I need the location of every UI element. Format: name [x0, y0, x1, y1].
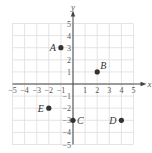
x-tick-label: 3 [107, 86, 111, 95]
point-label: D [108, 115, 117, 126]
y-axis-label: y [70, 2, 75, 12]
x-axis-arrow-icon [141, 82, 147, 86]
y-tick-label: 2 [67, 56, 71, 65]
x-tick-label: −4 [20, 86, 29, 95]
y-tick-label: 3 [67, 44, 71, 53]
y-tick-label: 5 [67, 20, 71, 29]
y-tick-label: −2 [62, 104, 71, 113]
point-c: C [70, 115, 84, 126]
coordinate-plane: xy −5−4−3−2−11234554321−1−2−3−4−5 ABCDE [0, 0, 152, 153]
y-tick-label: −3 [62, 116, 71, 125]
x-tick-label: 4 [119, 86, 123, 95]
x-tick-label: −5 [8, 86, 17, 95]
point-marker [70, 118, 75, 123]
point-marker [119, 118, 124, 123]
y-tick-label: −5 [62, 141, 71, 150]
y-tick-label: 4 [67, 32, 71, 41]
x-tick-label: 5 [132, 86, 136, 95]
point-label: E [37, 103, 44, 114]
point-b: B [95, 60, 107, 75]
x-axis-label: x [147, 79, 152, 89]
x-tick-label: 2 [95, 86, 99, 95]
y-tick-label: 1 [67, 68, 71, 77]
x-tick-label: 1 [83, 86, 87, 95]
point-label: C [77, 115, 84, 126]
point-label: B [100, 60, 106, 71]
y-tick-label: −4 [62, 128, 71, 137]
point-label: A [49, 42, 57, 53]
x-tick-label: −2 [45, 86, 54, 95]
point-marker [95, 69, 100, 74]
point-marker [46, 106, 51, 111]
point-marker [58, 45, 63, 50]
x-tick-label: −3 [32, 86, 41, 95]
y-tick-label: −1 [62, 92, 71, 101]
